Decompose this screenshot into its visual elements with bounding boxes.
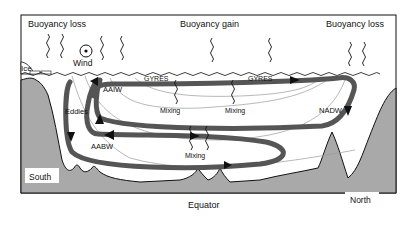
overturning-diagram: Buoyancy loss Buoyancy gain Buoyancy los… xyxy=(0,0,416,227)
label-buoyancy-loss-left: Buoyancy loss xyxy=(28,19,87,29)
label-mixing-3: Mixing xyxy=(185,152,205,160)
label-gyres-left: GYRES xyxy=(144,75,169,82)
label-buoyancy-loss-right: Buoyancy loss xyxy=(326,19,385,29)
label-nadw: NADW xyxy=(319,106,343,115)
label-gyres-right: GYRES xyxy=(248,75,273,82)
label-aabw: AABW xyxy=(91,142,114,151)
label-north: North xyxy=(350,195,371,205)
label-south: South xyxy=(29,172,51,182)
label-aaiw: AAIW xyxy=(103,85,123,94)
label-wind: Wind xyxy=(73,58,93,68)
label-ice: Ice xyxy=(21,64,32,73)
label-buoyancy-gain: Buoyancy gain xyxy=(180,19,239,29)
label-eddies: Eddies xyxy=(65,107,88,116)
label-equator: Equator xyxy=(188,200,220,210)
label-mixing-2: Mixing xyxy=(225,107,245,115)
label-mixing-1: Mixing xyxy=(160,107,180,115)
